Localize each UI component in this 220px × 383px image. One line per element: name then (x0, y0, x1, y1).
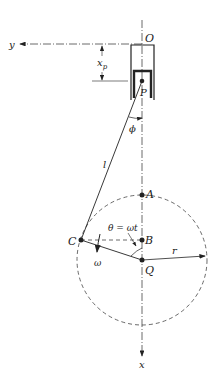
point-q-dot (140, 258, 145, 263)
label-theta: θ = ωt (108, 223, 138, 233)
omega-arrow (97, 234, 100, 252)
label-a: A (145, 188, 154, 201)
connecting-rod (81, 81, 142, 240)
label-q: Q (145, 264, 154, 277)
label-xp: xp (97, 57, 108, 71)
label-l: l (103, 159, 106, 170)
point-c-dot (79, 238, 84, 243)
slider-crank-diagram: O y xp P ϕ l A B C Q r θ = ωt ω x (0, 0, 220, 383)
label-phi: ϕ (129, 123, 136, 134)
label-b: B (144, 234, 153, 247)
crank-arm (81, 240, 142, 260)
label-p: P (139, 87, 147, 98)
phi-angle (129, 117, 142, 118)
label-r: r (172, 245, 178, 256)
radius-arrow (142, 256, 205, 260)
label-omega: ω (94, 258, 102, 268)
label-x-axis: x (139, 359, 145, 370)
label-c: C (68, 235, 77, 248)
label-y-axis: y (8, 39, 15, 50)
point-b-dot (140, 238, 145, 243)
theta-angle (128, 233, 142, 256)
label-origin: O (145, 32, 154, 45)
point-a-dot (140, 193, 145, 198)
